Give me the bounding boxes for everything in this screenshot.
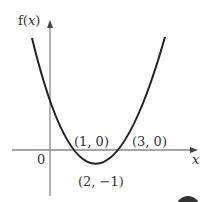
root-1-label: (1, 0)	[74, 134, 109, 149]
origin-label: 0	[37, 152, 45, 167]
root-2-label: (3, 0)	[132, 134, 167, 149]
x-axis-label: x	[192, 152, 200, 167]
vertex-label: (2, −1)	[78, 174, 124, 189]
y-axis-label: f(x)	[18, 13, 40, 28]
parabola-chart: f(x) x 0 (1, 0) (3, 0) (2, −1)	[0, 0, 210, 202]
y-axis-arrow-icon	[47, 20, 53, 28]
corner-dot-icon	[176, 196, 200, 202]
